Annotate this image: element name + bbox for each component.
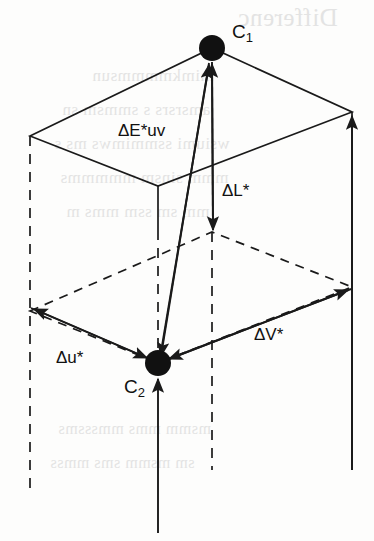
label-delta-l-star: ΔL* [222, 182, 249, 199]
label-delta-e-uv: ΔE*uv [118, 122, 165, 139]
color-difference-diagram: Differenc mimkmmmmsun amsrsrs s smmsm sn… [0, 0, 374, 541]
bottom-face-parallelogram [30, 232, 352, 363]
label-point-c2: C2 [124, 377, 145, 399]
label-point-c1-subscript: 1 [246, 30, 253, 45]
point-c1-dot [199, 35, 225, 61]
point-c2-dot [145, 350, 171, 376]
top-face-parallelogram [30, 48, 352, 186]
delta-e-uv-vector [160, 63, 209, 358]
label-delta-u-star: Δu* [56, 349, 83, 366]
label-point-c2-subscript: 2 [138, 385, 145, 400]
delta-u-star-vector [31, 308, 150, 359]
delta-l-star-vector [212, 62, 213, 230]
label-delta-v-star: ΔV* [254, 326, 283, 343]
label-point-c1: C1 [232, 22, 253, 44]
label-point-c2-letter: C [124, 376, 138, 397]
diagram-canvas [0, 0, 374, 541]
label-point-c1-letter: C [232, 21, 246, 42]
